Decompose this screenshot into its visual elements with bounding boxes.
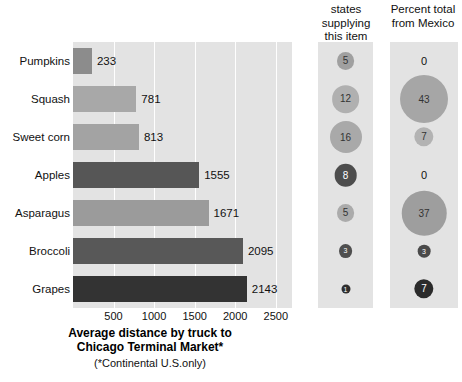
- bar: [73, 200, 209, 226]
- x-tick-label: 500: [104, 310, 122, 322]
- bubble: 37: [402, 191, 447, 236]
- bubble: 3: [339, 244, 353, 258]
- x-tick-label: 2500: [264, 310, 288, 322]
- bubble-zero-label: 0: [421, 55, 427, 67]
- category-label: Broccoli: [0, 245, 70, 257]
- bar: [73, 162, 199, 188]
- bubble: 3: [418, 245, 431, 258]
- bubble: 16: [330, 121, 362, 153]
- infographic-chart: states supplying this item Percent total…: [0, 0, 462, 382]
- bar-value-label: 1671: [214, 207, 240, 219]
- category-label: Apples: [0, 169, 70, 181]
- category-label: Squash: [0, 93, 70, 105]
- bubble: 43: [400, 75, 448, 123]
- axis-footnote: (*Continental U.S.only): [0, 357, 300, 369]
- bar: [73, 48, 92, 74]
- mexico-column-header: Percent total from Mexico: [384, 3, 462, 30]
- bubble: 5: [337, 204, 355, 222]
- bar: [73, 124, 139, 150]
- bar-value-label: 813: [144, 131, 163, 143]
- bar: [73, 86, 136, 112]
- axis-title: Average distance by truck to Chicago Ter…: [0, 326, 300, 354]
- bar: [73, 276, 247, 302]
- states-column-header: states supplying this item: [310, 3, 382, 44]
- category-label: Grapes: [0, 283, 70, 295]
- x-tick-label: 1000: [142, 310, 166, 322]
- category-label: Pumpkins: [0, 55, 70, 67]
- x-tick-label: 2000: [223, 310, 247, 322]
- bar-value-label: 233: [97, 55, 116, 67]
- x-tick-label: 1500: [182, 310, 206, 322]
- bubble: 5: [337, 52, 355, 70]
- bar-value-label: 2143: [252, 283, 278, 295]
- gridline: [235, 42, 236, 308]
- bar-value-label: 781: [141, 93, 160, 105]
- bubble: 8: [334, 164, 357, 187]
- category-label: Asparagus: [0, 207, 70, 219]
- bar-value-label: 2095: [248, 245, 274, 257]
- bar-value-label: 1555: [204, 169, 230, 181]
- bubble: 12: [332, 85, 360, 113]
- bubble-zero-label: 0: [421, 169, 427, 181]
- bubble: 1: [341, 285, 350, 294]
- bar: [73, 238, 243, 264]
- category-label: Sweet corn: [0, 131, 70, 143]
- gridline: [276, 42, 277, 308]
